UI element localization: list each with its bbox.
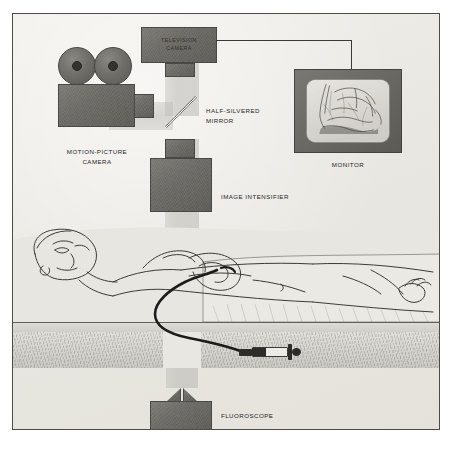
monitor-shell[interactable]	[294, 69, 402, 153]
monitor-screen	[306, 79, 390, 143]
motion-picture-camera-body[interactable]	[58, 84, 135, 127]
figure-plate: TELEVISION CAMERA MOTION-PICTURE CAMERA …	[12, 13, 440, 430]
fluoroscope-label: FLUOROSCOPE	[221, 411, 341, 421]
figure-root: TELEVISION CAMERA MOTION-PICTURE CAMERA …	[0, 0, 463, 450]
image-intensifier-label: IMAGE INTENSIFIER	[221, 192, 351, 202]
television-camera-neck	[165, 63, 195, 77]
motion-picture-camera-lens	[134, 94, 154, 118]
film-reel-right-hub-icon	[108, 61, 118, 71]
beam-fluoroscope-to-table	[166, 332, 198, 388]
television-camera-label: TELEVISION CAMERA	[141, 36, 217, 52]
image-intensifier-body[interactable]	[150, 158, 212, 212]
motion-picture-camera-label: MOTION-PICTURE CAMERA	[37, 147, 157, 166]
video-cable-horizontal	[216, 40, 352, 41]
half-silvered-mirror-label: HALF-SILVERED MIRROR	[206, 106, 306, 125]
monitor-label: MONITOR	[298, 160, 398, 170]
image-intensifier-neck	[165, 139, 195, 158]
fluoroscopic-image	[307, 80, 389, 142]
beam-patient-to-intensifier	[165, 210, 199, 338]
fluoroscope-body[interactable]	[150, 401, 212, 430]
film-reel-left-hub-icon	[72, 61, 82, 71]
